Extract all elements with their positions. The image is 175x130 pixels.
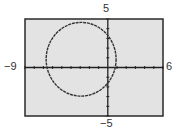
graph-screen — [0, 0, 175, 130]
